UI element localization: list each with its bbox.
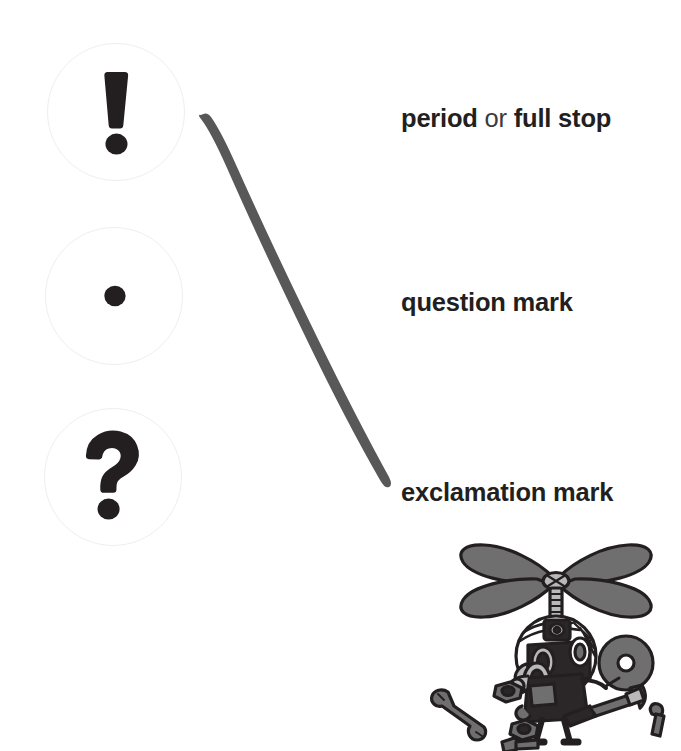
- label-part-weak: or: [478, 104, 514, 132]
- period-dot-icon: [46, 228, 182, 364]
- label-question-mark: question mark: [401, 290, 573, 316]
- pointer-curve: [170, 95, 410, 525]
- helicopter-mechanic-character: [404, 528, 680, 751]
- label-period-or-full-stop: period or full stop: [401, 106, 611, 132]
- question-mark-icon: [45, 409, 181, 545]
- label-text: exclamation mark: [401, 478, 613, 506]
- rotor-mast: [550, 588, 562, 618]
- bolt-right: [650, 704, 664, 736]
- label-part-strong-1: period: [401, 104, 478, 132]
- illustration-canvas: period or full stop question mark exclam…: [0, 0, 681, 751]
- wrench: [432, 690, 486, 740]
- label-text: question mark: [401, 288, 573, 316]
- label-part-strong-2: full stop: [514, 104, 611, 132]
- punctuation-bubble-period: [45, 227, 183, 365]
- exclamation-mark-icon: [48, 44, 184, 180]
- label-exclamation-mark: exclamation mark: [401, 480, 613, 506]
- punctuation-bubble-question: [44, 408, 182, 546]
- punctuation-bubble-exclamation: [47, 43, 185, 181]
- hex-nut-left: [494, 682, 522, 702]
- headlamp: [544, 620, 570, 640]
